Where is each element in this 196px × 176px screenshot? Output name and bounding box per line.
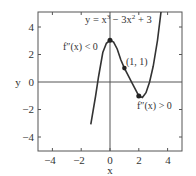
local-min-point	[136, 93, 141, 98]
y-tick-label: −4	[22, 131, 34, 143]
local-max-point	[108, 38, 113, 43]
y-tick-label: 4	[29, 21, 35, 33]
y-axis-label: y	[15, 76, 21, 88]
x-axis-label: x	[107, 164, 113, 176]
y-tick-label: −2	[22, 103, 34, 115]
cubic-function-chart: −4 −2 0 2 4 4 2 0 −2 −4 x y y = x3 − 3x2…	[0, 0, 196, 176]
concave-up-label: f″(x) > 0	[137, 100, 172, 112]
curve-equation-label: y = x3 − 3x2 + 3	[85, 13, 152, 25]
y-tick-label: 2	[29, 48, 35, 60]
y-tick-label: 0	[29, 76, 35, 88]
x-tick-label: −4	[44, 154, 56, 166]
x-tick-label: −2	[73, 154, 85, 166]
inflection-point-label: (1, 1)	[126, 56, 148, 68]
concave-down-label: f″(x) < 0	[63, 41, 98, 53]
x-tick-label: 2	[136, 154, 142, 166]
x-tick-label: 4	[165, 154, 171, 166]
